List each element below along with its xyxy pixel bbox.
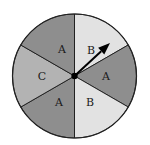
sector-label: A bbox=[57, 43, 67, 56]
sector-label: B bbox=[87, 44, 95, 57]
spinner-diagram: BABACA bbox=[0, 0, 150, 145]
sector-label: A bbox=[101, 70, 111, 83]
spinner-hub bbox=[71, 73, 77, 79]
sector-label: A bbox=[54, 96, 64, 109]
sector-label: C bbox=[38, 70, 46, 83]
sector-label: B bbox=[86, 96, 94, 109]
